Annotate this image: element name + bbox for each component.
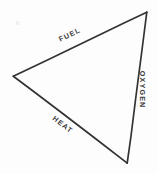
scan-artifact-speck — [16, 21, 19, 25]
fire-triangle-diagram: FUEL OXYGEN HEAT — [0, 0, 157, 174]
heat-edge-line — [13, 76, 127, 163]
fuel-edge-line — [13, 12, 147, 76]
edge-label-oxygen: OXYGEN — [139, 71, 146, 109]
